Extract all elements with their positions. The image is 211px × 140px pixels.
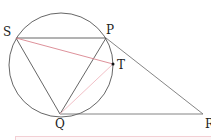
segment-sq: [16, 38, 60, 114]
circle: [9, 13, 113, 117]
label-p: P: [106, 23, 114, 37]
caption-box: [15, 136, 211, 140]
segment-pr: [106, 38, 203, 114]
label-r: R: [205, 117, 211, 131]
segment-pq: [60, 38, 106, 114]
geometry-diagram: S P T Q R: [0, 0, 211, 140]
segments: [16, 38, 203, 114]
label-t: T: [117, 58, 125, 72]
diagram-svg: S P T Q R: [0, 0, 211, 140]
point-t-dot: [112, 63, 115, 66]
label-q: Q: [55, 117, 65, 131]
segment-qt: [60, 64, 113, 114]
label-s: S: [3, 25, 11, 39]
